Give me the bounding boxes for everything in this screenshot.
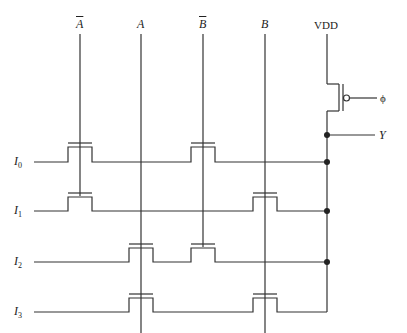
- label-phi: ϕ: [380, 92, 386, 104]
- junction-dot: [324, 159, 330, 165]
- wire-i0: [34, 147, 327, 162]
- label-i3: I3: [14, 305, 22, 322]
- pmos-precharge-transistor: [327, 34, 377, 312]
- wire-i1: [34, 197, 327, 211]
- label-i1: I1: [14, 204, 22, 221]
- wire-i3: [34, 298, 327, 312]
- label-y: Y: [379, 129, 386, 141]
- label-a: A: [137, 18, 144, 30]
- junction-dot: [324, 132, 330, 138]
- label-i2: I2: [14, 255, 22, 272]
- circuit-diagram: A A B B VDD ϕ Y I0 I1 I2 I3: [0, 0, 407, 333]
- label-i0: I0: [14, 155, 22, 172]
- junction-dot: [324, 208, 330, 214]
- label-b: B: [261, 18, 268, 30]
- circuit-schematic: [0, 0, 407, 333]
- junction-dot: [324, 259, 330, 265]
- label-vdd: VDD: [314, 19, 338, 31]
- label-bbar: B: [199, 18, 206, 30]
- label-abar: A: [76, 18, 83, 30]
- wire-i2: [34, 248, 327, 262]
